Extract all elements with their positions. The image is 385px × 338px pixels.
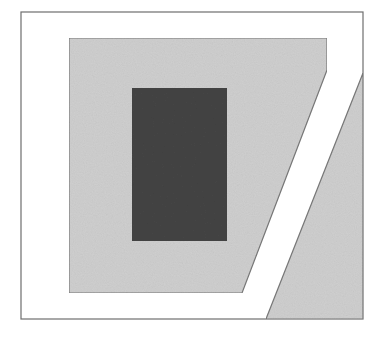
diagram-svg [0, 0, 385, 338]
diagram-canvas [0, 0, 385, 338]
dark-rectangle [132, 88, 227, 241]
